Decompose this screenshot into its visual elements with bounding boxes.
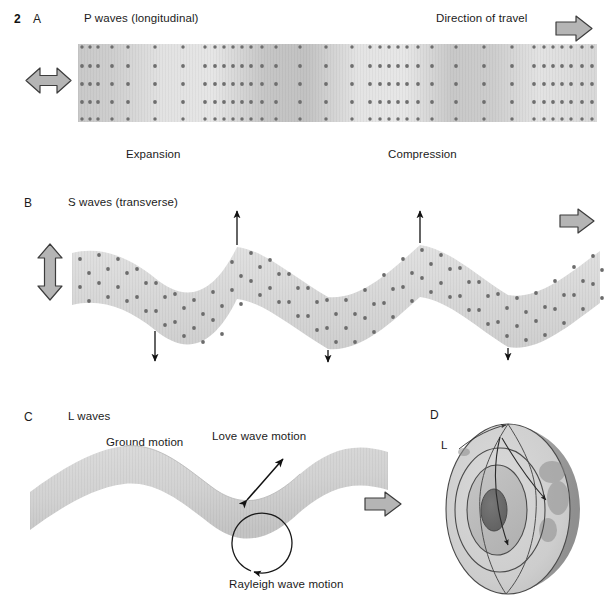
horizontal-double-arrow-icon	[26, 68, 71, 93]
s-wave-band	[72, 245, 604, 349]
direction-of-travel-arrow-icon-b	[560, 209, 594, 233]
panel-d-earth-cross-section	[446, 424, 580, 595]
figure-graphics	[0, 0, 607, 608]
ground-motion-sheet	[30, 446, 388, 539]
direction-of-travel-arrow-icon	[556, 16, 592, 41]
panel-a-p-waves	[26, 16, 597, 122]
earth-globe	[446, 424, 580, 594]
vertical-double-arrow-icon	[38, 244, 62, 300]
s-wave-up-arrows	[237, 211, 420, 245]
p-wave-band	[78, 44, 597, 122]
seismic-waves-figure: 2 A P waves (longitudinal) Direction of …	[0, 0, 607, 608]
panel-b-s-waves	[38, 209, 604, 362]
panel-c-l-waves	[30, 446, 401, 573]
direction-of-travel-arrow-icon-c	[365, 492, 401, 516]
